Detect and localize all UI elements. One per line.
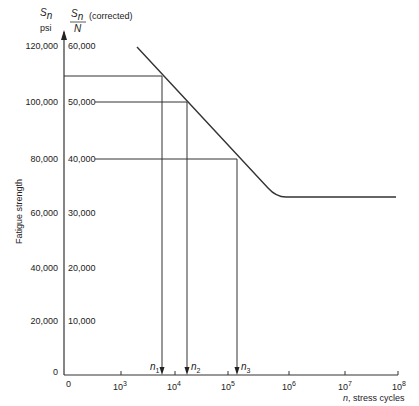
tick-exp: 7 xyxy=(348,380,352,387)
y-axis-arrow-icon xyxy=(61,30,67,40)
tick-exp: 4 xyxy=(177,380,181,387)
annotation-n2: n2 xyxy=(191,362,200,374)
x-tick-1e8: 108 xyxy=(392,380,406,392)
y-left-tick-20000: 20,000 xyxy=(3,317,58,326)
s-symbol: S xyxy=(71,8,78,19)
y-right-tick-50000: 50,000 xyxy=(68,98,96,107)
right-header-note: (corrected) xyxy=(89,12,133,21)
tick-exp: 8 xyxy=(402,380,406,387)
right-header-numerator: Sn xyxy=(71,9,83,22)
x-tick-1e7: 107 xyxy=(338,380,352,392)
y-left-tick-100000: 100,000 xyxy=(3,98,58,107)
tick-base: 10 xyxy=(167,382,177,392)
y-left-tick-80000: 80,000 xyxy=(3,155,58,164)
x-axis-title-text: , stress cycles xyxy=(348,393,405,403)
x-tick-1e6: 106 xyxy=(282,380,296,392)
arrow-n1-icon xyxy=(160,367,165,375)
tick-base: 10 xyxy=(113,382,123,392)
tick-exp: 3 xyxy=(123,380,127,387)
y-left-tick-120000: 120,000 xyxy=(3,42,58,51)
chart-canvas xyxy=(0,0,419,406)
annotation-n1: n1 xyxy=(150,362,159,374)
y-right-tick-10000: 10,000 xyxy=(68,317,96,326)
n-index: 2 xyxy=(197,367,201,374)
y-left-tick-60000: 60,000 xyxy=(3,209,58,218)
annotation-n3: n3 xyxy=(241,362,250,374)
n-subscript: n xyxy=(47,10,53,21)
n-subscript: n xyxy=(78,11,84,22)
x-tick-1e5: 105 xyxy=(221,380,235,392)
x-tick-1e3: 103 xyxy=(113,380,127,392)
y-right-tick-40000: 40,000 xyxy=(68,155,96,164)
right-header-denominator: N xyxy=(74,24,81,34)
tick-exp: 5 xyxy=(231,380,235,387)
y-left-tick-40000: 40,000 xyxy=(3,264,58,273)
n-index: 1 xyxy=(156,367,160,374)
arrow-n2-icon xyxy=(185,367,190,375)
x-tick-1e4: 104 xyxy=(167,380,181,392)
s-symbol: S xyxy=(40,7,47,18)
tick-base: 10 xyxy=(392,382,402,392)
y-right-tick-30000: 30,000 xyxy=(68,209,96,218)
y-left-tick-0: 0 xyxy=(3,368,58,377)
left-header-unit: psi xyxy=(40,24,52,33)
tick-base: 10 xyxy=(282,382,292,392)
left-header-symbol: Sn xyxy=(40,8,52,21)
arrow-n3-icon xyxy=(235,367,240,375)
tick-base: 10 xyxy=(221,382,231,392)
y-right-tick-60000: 60,000 xyxy=(68,42,96,51)
x-tick-0: 0 xyxy=(66,380,71,389)
y-axis-title: Fatigue strength xyxy=(14,179,24,244)
n-index: 3 xyxy=(247,367,251,374)
x-axis-title: n, stress cycles xyxy=(343,394,405,403)
sn-curve xyxy=(137,47,396,197)
tick-base: 10 xyxy=(338,382,348,392)
tick-exp: 6 xyxy=(292,380,296,387)
y-right-tick-20000: 20,000 xyxy=(68,264,96,273)
